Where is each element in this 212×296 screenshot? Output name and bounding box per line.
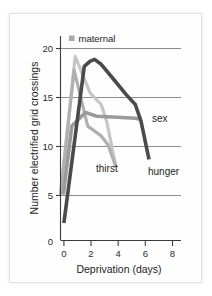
x-tick-label-8: 8 (170, 248, 175, 259)
x-axis-title: Deprivation (days) (76, 263, 161, 275)
y-tick-label-20: 20 (42, 43, 53, 54)
x-tick-label-2: 2 (88, 248, 93, 259)
y-tick-label-5: 5 (48, 190, 53, 201)
plot-area: 20 15 10 5 0 0 2 4 6 8 Deprivation (days… (0, 0, 212, 296)
series-label-sex: sex (152, 113, 168, 124)
x-tick-label-0: 0 (61, 248, 66, 259)
chart-figure: 20 15 10 5 0 0 2 4 6 8 Deprivation (days… (0, 0, 212, 296)
y-axis-title: Number electrified grid crossings (28, 62, 40, 215)
x-axis-ticks (64, 241, 173, 247)
y-tick-label-15: 15 (42, 92, 53, 103)
legend-swatch-icon (69, 36, 75, 42)
x-tick-label-6: 6 (143, 248, 148, 259)
origin-label: 0 (48, 236, 53, 247)
legend-label-maternal: maternal (79, 33, 116, 44)
series-label-hunger: hunger (148, 166, 180, 177)
series-label-thirst: thirst (96, 163, 118, 174)
x-tick-label-4: 4 (116, 248, 121, 259)
series-line-sex (63, 112, 140, 194)
y-axis-ticks (56, 49, 61, 196)
chart-svg: 20 15 10 5 0 0 2 4 6 8 Deprivation (days… (0, 0, 212, 296)
y-tick-label-10: 10 (42, 141, 53, 152)
